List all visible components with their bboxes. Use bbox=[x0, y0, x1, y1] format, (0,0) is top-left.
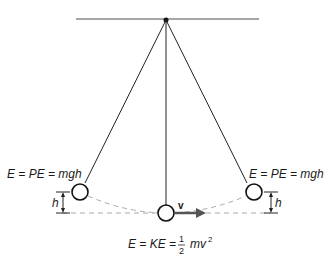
pendulum-diagram: E = PE = mgh E = PE = mgh h h v E = KE =… bbox=[0, 0, 336, 263]
bob-right bbox=[246, 184, 262, 200]
string-left bbox=[85, 20, 166, 183]
fraction-numerator: 1 bbox=[179, 234, 184, 244]
right-height-arrowhead-up bbox=[269, 192, 273, 197]
left-height-arrowhead-down bbox=[61, 208, 65, 213]
bottom-energy-prefix: E = KE = bbox=[128, 237, 179, 251]
fraction-denominator: 2 bbox=[179, 246, 184, 256]
bob-left bbox=[72, 184, 88, 200]
bottom-energy-suffix: mv bbox=[190, 237, 207, 251]
right-height-arrowhead-down bbox=[269, 208, 273, 213]
string-right bbox=[166, 20, 247, 183]
right-height-label: h bbox=[275, 196, 282, 210]
left-energy-label: E = PE = mgh bbox=[7, 167, 82, 181]
right-energy-label: E = PE = mgh bbox=[249, 167, 324, 181]
left-height-label: h bbox=[52, 196, 59, 210]
exponent: 2 bbox=[208, 235, 213, 244]
velocity-label: v bbox=[178, 200, 184, 211]
bob-center bbox=[158, 205, 174, 221]
left-height-arrowhead-up bbox=[61, 192, 65, 197]
